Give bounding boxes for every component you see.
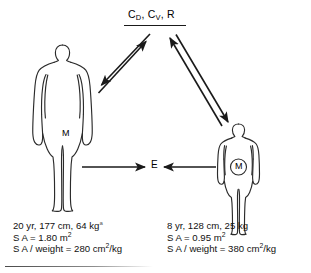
adult-footnote-mark: a xyxy=(99,220,102,226)
child-metabolism-label: M xyxy=(235,162,243,171)
adult-sa-per-weight: S A / weight = 280 cm xyxy=(13,243,106,254)
adult-sa-weight-unit: /kg xyxy=(109,243,122,254)
media-node-underline xyxy=(124,25,186,26)
child-sa-weight-unit: /kg xyxy=(263,243,276,254)
child-caption-block: 8 yr, 128 cm, 25 kg S A = 0.95 m2 S A / … xyxy=(167,220,276,255)
bottom-divider-rule xyxy=(5,266,153,267)
child-caption-line-3: S A / weight = 380 cm2/kg xyxy=(167,243,276,255)
exposure-node-label: E xyxy=(151,160,158,170)
arrow-child-to-media xyxy=(170,38,222,126)
diagram-canvas: CD, CV, R E M M 20 yr, 177 cm, 64 kga S … xyxy=(0,0,311,273)
arrow-adult-to-media xyxy=(99,42,147,94)
child-sa-exponent: 2 xyxy=(222,230,226,237)
child-body-figure xyxy=(218,124,260,235)
media-c1: C xyxy=(128,8,136,20)
adult-demographics: 20 yr, 177 cm, 64 kg xyxy=(13,220,99,231)
child-demographics: 8 yr, 128 cm, 25 kg xyxy=(167,220,248,231)
media-sub-d: D xyxy=(136,13,142,22)
media-sep1: , C xyxy=(141,8,155,20)
adult-surface-area: S A = 1.80 m xyxy=(13,232,68,243)
media-sep2: , R xyxy=(161,8,175,20)
adult-caption-line-3: S A / weight = 280 cm2/kg xyxy=(13,243,122,255)
arrow-media-to-child xyxy=(176,35,228,123)
adult-caption-block: 20 yr, 177 cm, 64 kga S A = 1.80 m2 S A … xyxy=(13,220,122,255)
child-surface-area: S A = 0.95 m xyxy=(167,232,222,243)
media-node-label: CD, CV, R xyxy=(128,9,175,20)
media-sub-v: V xyxy=(155,13,160,22)
arrow-media-to-adult xyxy=(102,34,151,85)
adult-sa-exponent: 2 xyxy=(68,230,72,237)
adult-metabolism-label: M xyxy=(62,129,70,138)
child-sa-per-weight: S A / weight = 380 cm xyxy=(167,243,260,254)
